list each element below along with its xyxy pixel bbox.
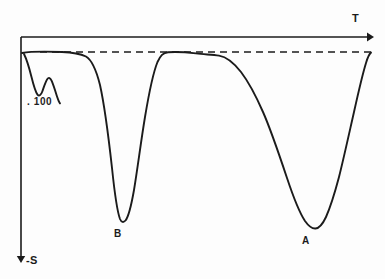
peak-label-b: B xyxy=(114,228,121,239)
y-axis-label: -S xyxy=(26,254,38,266)
main-spectrum-trace xyxy=(22,52,371,229)
x-axis-label: T xyxy=(352,12,359,24)
x-axis-arrow-icon xyxy=(367,33,374,42)
y-axis-group xyxy=(17,37,25,263)
magnification-scale-label: . 100 xyxy=(27,96,52,107)
spectrum-plot xyxy=(0,0,385,279)
x-axis-group xyxy=(21,33,374,42)
figure-container: T -S B A . 100 xyxy=(0,0,385,279)
y-axis-arrow-icon xyxy=(17,256,25,263)
peak-label-a: A xyxy=(302,235,309,246)
